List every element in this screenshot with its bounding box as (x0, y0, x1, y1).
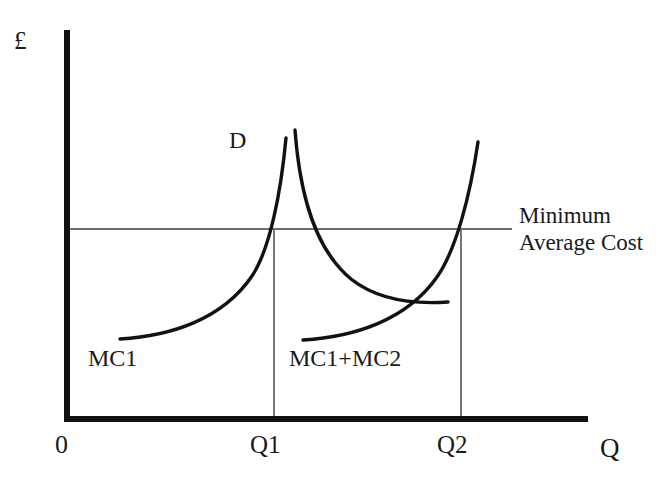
x-tick-label-q1: Q1 (250, 430, 281, 460)
minimum-average-cost-label-line2: Average Cost (519, 229, 643, 256)
minimum-average-cost-label-line1: Minimum (519, 203, 611, 228)
x-tick-label-q2: Q2 (437, 430, 468, 460)
x-axis-label: Q (600, 433, 620, 465)
demand-curve-label: D (229, 126, 246, 154)
mc1-curve-label: MC1 (88, 344, 137, 372)
mc1-plus-mc2-curve (303, 142, 478, 340)
origin-label: 0 (55, 430, 68, 461)
y-axis-label: £ (14, 26, 27, 56)
minimum-average-cost-label: Minimum Average Cost (519, 202, 643, 256)
mc1-plus-mc2-curve-label: MC1+MC2 (289, 344, 401, 372)
demand-curve (295, 130, 448, 303)
mc1-curve (120, 138, 286, 339)
economics-diagram-figure: £ 0 Q1 Q2 Q D MC1 MC1+MC2 Minimum Averag… (0, 0, 663, 482)
